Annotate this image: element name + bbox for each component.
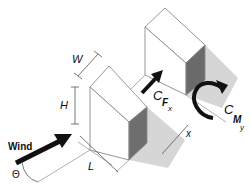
wind-label: Wind: [8, 141, 32, 152]
height-dimension: [71, 87, 79, 124]
moment-coefficient-subscript-y: y: [239, 123, 245, 132]
height-label: H: [60, 99, 68, 111]
width-label: W: [72, 53, 84, 65]
length-label: L: [88, 160, 94, 172]
force-coefficient-subscript-x: x: [167, 104, 173, 113]
front-building: [90, 66, 147, 160]
angle-label: Θ: [12, 169, 20, 180]
wind-load-diagram: W H L Wind Θ C F x C M y x: [0, 0, 251, 184]
angle-arc: [22, 162, 38, 182]
spacing-label: x: [185, 128, 192, 139]
